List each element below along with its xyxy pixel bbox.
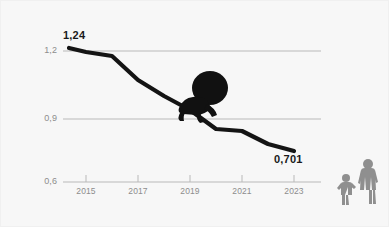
crawling-baby-silhouette (179, 71, 229, 123)
y-tick-label-1-2: 1,2 (31, 45, 57, 55)
y-tick-label-0-6: 0,6 (31, 176, 57, 186)
chart-card: 1,2 0,9 0,6 2015 2017 2019 2021 2023 1,2… (0, 0, 389, 227)
x-tick-label-2019: 2019 (170, 186, 210, 196)
y-tick-label-0-9: 0,9 (31, 113, 57, 123)
end-value-label: 0,701 (274, 153, 303, 165)
line-chart-plot-area: 1,2 0,9 0,6 2015 2017 2019 2021 2023 1,2… (1, 1, 389, 227)
x-tick-label-2021: 2021 (222, 186, 262, 196)
start-value-label: 1,24 (63, 29, 85, 41)
fertility-rate-line (69, 48, 294, 151)
x-tick-label-2015: 2015 (66, 186, 106, 196)
x-axis (63, 175, 321, 182)
adult-and-child-silhouette (337, 159, 378, 205)
x-tick-label-2017: 2017 (118, 186, 158, 196)
x-tick-label-2023: 2023 (274, 186, 314, 196)
